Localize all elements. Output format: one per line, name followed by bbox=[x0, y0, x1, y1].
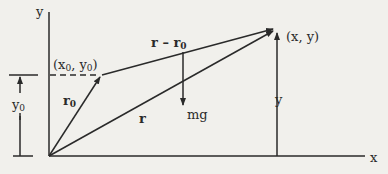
x-axis-label: x bbox=[370, 151, 377, 164]
y-axis-label: y bbox=[36, 5, 43, 18]
r0-vector bbox=[49, 77, 100, 156]
y0-dimension-label: y0 bbox=[12, 98, 25, 113]
r-minus-r0-vector bbox=[102, 29, 273, 75]
gravity-label: mg bbox=[187, 108, 208, 121]
vector-diagram: y x (x0, y0) (x, y) r0 r r – r0 mg y0 y bbox=[0, 0, 388, 174]
current-point-label: (x, y) bbox=[286, 30, 319, 43]
diagram-svg bbox=[0, 0, 388, 174]
initial-point-label: (x0, y0) bbox=[53, 58, 98, 73]
r-minus-r0-label: r – r0 bbox=[151, 36, 187, 51]
y-dimension-label: y bbox=[275, 93, 282, 106]
r0-vector-label: r0 bbox=[63, 94, 76, 109]
r-vector-label: r bbox=[139, 112, 146, 125]
